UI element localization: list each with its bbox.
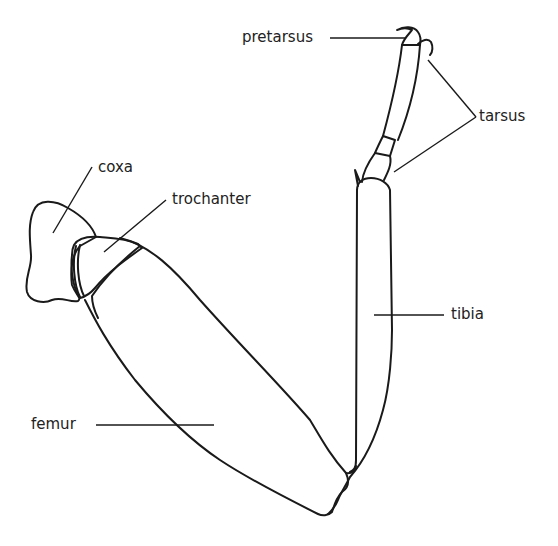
tarsus-segment-3: [383, 45, 420, 140]
label-tarsus: tarsus: [479, 109, 525, 124]
femur-shape: [85, 238, 348, 515]
coxa-leader: [53, 167, 92, 233]
label-tibia: tibia: [451, 307, 484, 322]
label-coxa: coxa: [98, 160, 133, 175]
label-trochanter: trochanter: [172, 192, 251, 207]
tibia-inner-edge: [350, 190, 357, 472]
tarsus-leader-upper: [428, 60, 476, 117]
label-pretarsus: pretarsus: [242, 30, 313, 45]
pretarsus-claw-1: [397, 27, 421, 45]
trochanter-rim-line-2: [78, 245, 84, 296]
tarsus-leader-lower: [394, 117, 476, 172]
coxa-shape: [26, 202, 96, 302]
label-femur: femur: [31, 417, 76, 432]
insect-leg-drawing: [0, 0, 558, 546]
